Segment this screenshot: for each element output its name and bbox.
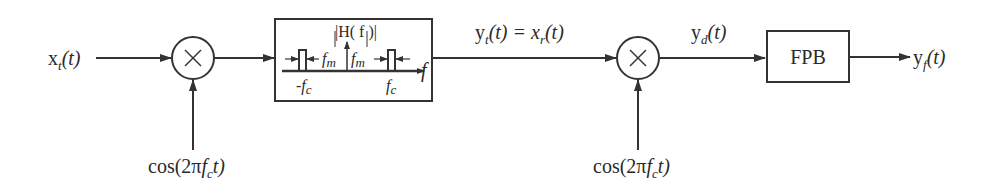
fm-left-label: fm — [322, 51, 336, 67]
output-signal-label: yf(t) — [913, 47, 946, 67]
frequency-axis-label: f — [421, 60, 427, 80]
demodulated-signal-label: yd(t) — [691, 22, 726, 42]
pos-fc-label: fc — [386, 78, 396, 94]
input-signal-label: xt(t) — [48, 48, 81, 68]
filter-response-title: |H( f )| — [335, 24, 377, 40]
lowpass-filter-block: FPB — [766, 30, 850, 83]
lowpass-filter-label: FPB — [768, 46, 848, 69]
oscillator-2-label: cos(2πfct) — [593, 156, 670, 176]
fm-right-label: fm — [351, 51, 365, 67]
neg-fc-label: -fc — [296, 78, 312, 94]
transmitted-signal-label: yt(t) = xr(t) — [475, 22, 564, 42]
oscillator-1-label: cos(2πfct) — [148, 156, 225, 176]
